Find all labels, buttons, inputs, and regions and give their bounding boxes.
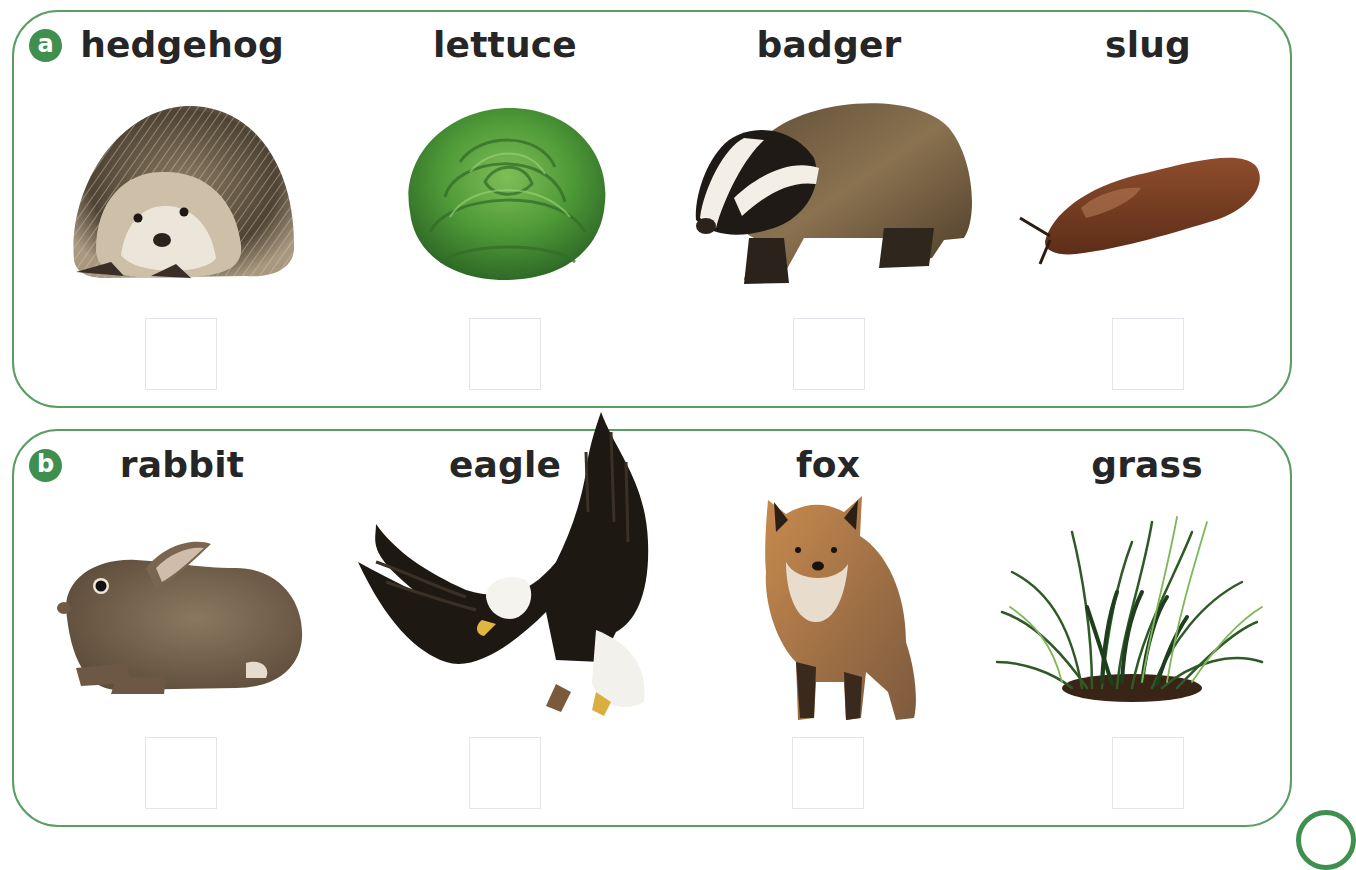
rabbit-picture (56, 538, 306, 696)
answer-box-badger[interactable] (793, 318, 865, 390)
answer-box-eagle[interactable] (469, 737, 541, 809)
section-b-badge: b (29, 449, 62, 482)
section-a-badge: a (29, 29, 62, 62)
answer-box-fox[interactable] (792, 737, 864, 809)
answer-box-slug[interactable] (1112, 318, 1184, 390)
badger-picture (694, 88, 978, 288)
answer-box-hedgehog[interactable] (145, 318, 217, 390)
answer-box-rabbit[interactable] (145, 737, 217, 809)
fox-picture (756, 492, 922, 724)
label-fox: fox (796, 444, 860, 485)
label-eagle: eagle (449, 444, 561, 485)
page-corner-circle (1296, 810, 1356, 870)
grass-picture (992, 512, 1270, 706)
slug-picture (1016, 148, 1264, 266)
answer-box-grass[interactable] (1112, 737, 1184, 809)
label-rabbit: rabbit (120, 444, 244, 485)
label-badger: badger (757, 24, 902, 65)
hedgehog-picture (66, 100, 298, 286)
answer-box-lettuce[interactable] (469, 318, 541, 390)
label-lettuce: lettuce (433, 24, 577, 65)
label-grass: grass (1091, 444, 1203, 485)
label-slug: slug (1105, 24, 1191, 65)
label-hedgehog: hedgehog (80, 24, 284, 65)
lettuce-picture (400, 102, 610, 282)
